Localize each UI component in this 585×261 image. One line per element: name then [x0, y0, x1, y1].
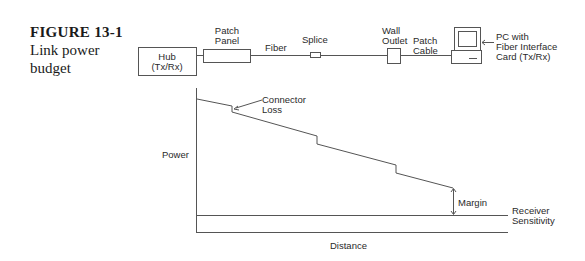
- patch-panel-box: [204, 50, 251, 63]
- power-curve: [197, 99, 453, 188]
- splice-icon: [311, 53, 321, 58]
- patch-cable-label: Patch Cable: [413, 36, 438, 56]
- y-axis-label: Power: [162, 150, 189, 160]
- patch-panel-label: Patch Panel: [203, 26, 251, 46]
- x-axis-label: Distance: [330, 241, 367, 251]
- pc-icon: [452, 28, 482, 64]
- wall-outlet-box: [388, 49, 401, 64]
- connector-loss-pointer: [236, 100, 262, 108]
- pc-label: PC with Fiber Interface Card (Tx/Rx): [496, 32, 557, 62]
- margin-label: Margin: [458, 198, 487, 208]
- receiver-sensitivity-label: Receiver Sensitivity: [512, 206, 555, 226]
- fiber-label: Fiber: [265, 43, 287, 53]
- connector-loss-label: Connector Loss: [262, 95, 306, 115]
- splice-label: Splice: [302, 35, 328, 45]
- hub-label: Hub (Tx/Rx): [148, 52, 186, 72]
- wall-outlet-label: Wall Outlet: [382, 26, 407, 46]
